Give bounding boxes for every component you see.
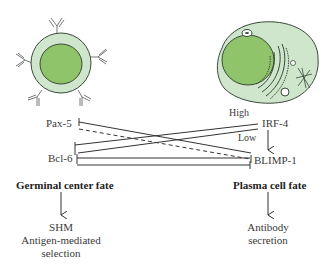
gene-label-blimp1: BLIMP-1 bbox=[254, 155, 297, 166]
plasma-cell-icon bbox=[217, 22, 318, 103]
germinal-center-outcome-line2: Antigen-mediated bbox=[11, 235, 111, 246]
irf4-low-label: Low bbox=[238, 133, 256, 143]
irf4-high-inhibits-bcl6-line bbox=[75, 124, 258, 145]
germinal-center-outcome-line1: SHM bbox=[11, 222, 111, 233]
germinal-center-fate-title: Germinal center fate bbox=[16, 180, 114, 191]
plasma-cell-fate-title: Plasma cell fate bbox=[233, 180, 306, 191]
plasma-cell-outcome-line2: secretion bbox=[228, 235, 308, 246]
gene-label-bcl6: Bcl-6 bbox=[48, 153, 72, 164]
germinal-center-b-cell-icon bbox=[16, 18, 107, 106]
plasma-cell-outcome-line1: Antibody bbox=[228, 222, 308, 233]
irf4-high-label: High bbox=[229, 108, 249, 118]
germinal-center-outcome-line3: selection bbox=[11, 248, 111, 259]
blimp1-inhibits-pax5-line bbox=[79, 122, 251, 153]
b-cell-fate-diagram: Pax-5 Bcl-6 IRF-4 BLIMP-1 High Low Germi… bbox=[0, 0, 329, 271]
gene-label-pax5: Pax-5 bbox=[46, 118, 72, 129]
regulatory-network bbox=[61, 118, 268, 215]
gene-label-irf4: IRF-4 bbox=[262, 118, 288, 129]
